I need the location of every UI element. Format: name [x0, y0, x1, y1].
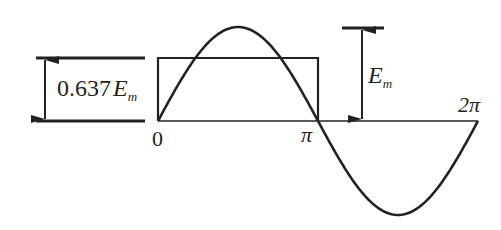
- average-value-label: 0.637Em: [57, 75, 137, 102]
- average-rectangle: [158, 58, 318, 121]
- amp-symbol: E: [368, 62, 383, 88]
- avg-symbol: E: [113, 75, 128, 101]
- sine-average-diagram: 0.637Em Em 0 π 2π: [0, 0, 501, 230]
- tick-label-zero: 0: [152, 126, 163, 152]
- tick-label-pi: π: [301, 122, 312, 148]
- tick-label-2pi: 2π: [458, 92, 480, 118]
- diagram-canvas: [0, 0, 501, 230]
- avg-subscript: m: [128, 89, 137, 104]
- avg-coefficient: 0.637: [57, 75, 111, 101]
- amplitude-label: Em: [368, 62, 392, 89]
- amp-subscript: m: [383, 76, 392, 91]
